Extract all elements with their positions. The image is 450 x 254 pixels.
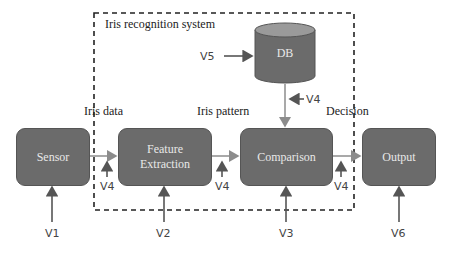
sensor-node[interactable]: Sensor: [16, 128, 90, 186]
vuln-v4-c: V4: [334, 180, 349, 193]
vuln-v1: V1: [45, 227, 60, 240]
feature-extraction-node[interactable]: Feature Extraction: [118, 128, 212, 186]
system-title: Iris recognition system: [105, 17, 215, 32]
feature-label-line2: Extraction: [140, 157, 190, 172]
output-node[interactable]: Output: [362, 128, 436, 186]
db-label: DB: [255, 46, 315, 61]
vuln-v4-b: V4: [215, 180, 230, 193]
vuln-v5: V5: [200, 50, 215, 63]
comparison-node[interactable]: Comparison: [240, 128, 333, 186]
edge-label-iris-data: Iris data: [84, 104, 123, 119]
vuln-v6: V6: [391, 227, 406, 240]
vuln-v4-db: V4: [306, 93, 321, 106]
sensor-label: Sensor: [37, 150, 70, 165]
vuln-v4-a: V4: [100, 180, 115, 193]
vuln-v2: V2: [156, 227, 171, 240]
diagram-lines: [0, 0, 450, 254]
comparison-label: Comparison: [257, 150, 316, 165]
edge-label-decision: Decision: [326, 104, 369, 119]
output-label: Output: [382, 150, 415, 165]
edge-label-iris-pattern: Iris pattern: [197, 104, 249, 119]
feature-label-line1: Feature: [147, 142, 183, 157]
vuln-v3: V3: [279, 227, 294, 240]
